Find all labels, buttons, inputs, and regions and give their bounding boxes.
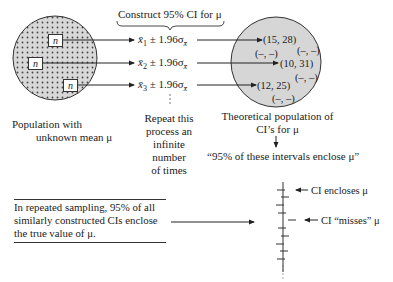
formula-rest: ± 1.96σ: [147, 56, 184, 68]
brace-label: Construct 95% CI for μ: [118, 8, 222, 21]
repeat-line-2: process an: [134, 125, 204, 138]
population-caption-2: unknown mean μ: [36, 131, 112, 144]
repeat-line-1: Repeat this: [134, 112, 204, 125]
ci-population-caption-2: CI’s for μ: [210, 123, 345, 136]
brace: [117, 21, 224, 30]
continuation-dots: [169, 94, 170, 103]
sigma-subscript: x̄: [184, 84, 188, 93]
population-caption-1: Population with: [12, 118, 82, 131]
formula-3: x̄3 ± 1.96σx̄: [138, 78, 187, 95]
formula-rest: ± 1.96σ: [147, 33, 184, 45]
sample-box-3: n: [63, 79, 78, 92]
repeat-line-5: of times: [134, 164, 204, 177]
sigma-subscript: x̄: [184, 62, 188, 71]
interval-blank: (–, –): [272, 92, 295, 105]
label-misses: CI “misses” μ: [321, 214, 380, 227]
repeated-sampling-note: In repeated sampling, 95% of all similar…: [14, 199, 166, 243]
formula-rest: ± 1.96σ: [147, 78, 184, 90]
sigma-subscript: x̄: [184, 39, 188, 48]
interval-1: (15, 28): [263, 33, 296, 46]
repeat-line-4: number: [134, 151, 204, 164]
interval-plot: [276, 182, 296, 272]
sample-box-2: n: [28, 57, 43, 70]
interval-blank: (–, –): [295, 71, 318, 84]
sample-box-1: n: [48, 34, 63, 47]
interval-blank: (–, –): [255, 47, 278, 60]
repeat-line-3: infinite: [134, 138, 204, 151]
interval-3: (12, 25): [257, 79, 290, 92]
population-circle: [13, 16, 97, 100]
label-encloses: CI encloses μ: [311, 184, 368, 197]
interval-blank: (–, –): [297, 44, 320, 57]
ci-population-caption-1: Theoretical population of: [210, 110, 345, 123]
interval-2: (10, 31): [280, 57, 313, 70]
quote: “95% of these intervals enclose μ”: [207, 150, 359, 163]
formula-2: x̄2 ± 1.96σx̄: [138, 56, 187, 73]
formula-1: x̄1 ± 1.96σx̄: [138, 33, 187, 50]
